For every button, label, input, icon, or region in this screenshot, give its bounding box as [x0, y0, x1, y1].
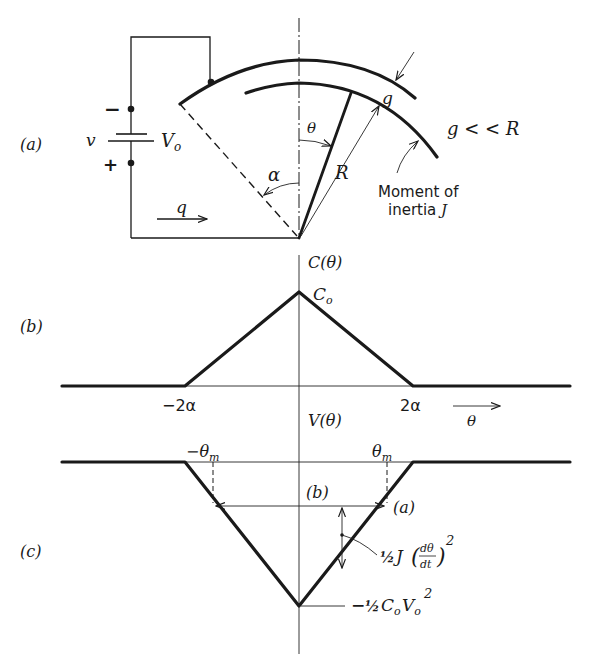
svg-text:½: ½	[380, 549, 395, 565]
battery-v-label: v	[86, 130, 96, 150]
theta-arc	[299, 140, 331, 146]
svg-text:−: −	[351, 595, 365, 615]
gap-arrow	[396, 52, 414, 80]
point-label-a: (a)	[393, 498, 415, 517]
capacitance-axis-label: C(θ)	[308, 253, 342, 272]
inertia-label-line1: Moment of	[378, 183, 459, 201]
figure-canvas: (a) − + v Vo q α θ R	[0, 0, 590, 667]
range-label-b: (b)	[306, 483, 329, 502]
peak-label: Co	[313, 284, 333, 307]
tick-minus-2alpha: −2α	[162, 396, 196, 415]
capacitance-curve	[62, 292, 570, 386]
kinetic-energy-label: ½ J ( dθ dt ) 2	[380, 533, 454, 571]
tick-plus-2alpha: 2α	[400, 396, 421, 415]
battery-voltage-label: Vo	[161, 130, 181, 154]
svg-text:J: J	[393, 546, 404, 566]
alpha-label: α	[268, 164, 280, 185]
inertia-pointer	[397, 141, 418, 173]
svg-text:(: (	[411, 544, 420, 569]
gap-condition: g < < R	[447, 118, 519, 139]
terminal-dot-plus	[128, 160, 135, 167]
panel-b-label: (b)	[20, 317, 43, 336]
panel-b: (b) C(θ) Co −2α 2α θ	[20, 253, 570, 430]
panel-a-label: (a)	[20, 135, 42, 154]
svg-text:dt: dt	[420, 558, 432, 571]
panel-c-label: (c)	[20, 542, 41, 561]
circuit-top-wire	[131, 37, 210, 108]
inertia-label-line2: inertia J	[388, 201, 448, 219]
theta-axis-label: θ	[467, 412, 476, 430]
radius-label: R	[334, 162, 349, 183]
svg-text:2: 2	[445, 533, 454, 548]
svg-text:dθ: dθ	[420, 542, 434, 555]
gap-label: g	[382, 88, 393, 108]
theta-label: θ	[307, 119, 316, 137]
panel-c: (c) V(θ) −θm θm (b) (a) ½ J ( dθ dt ) 2	[20, 411, 570, 618]
plus-sign: +	[103, 154, 118, 175]
terminal-dot-minus	[128, 106, 135, 113]
potential-axis-label: V(θ)	[308, 411, 342, 430]
svg-text:2: 2	[423, 586, 432, 601]
minus-sign: −	[104, 97, 121, 121]
panel-a: (a) − + v Vo q α θ R	[20, 37, 519, 238]
svg-text:½: ½	[365, 598, 380, 614]
svg-text:): )	[436, 544, 446, 569]
minimum-energy-label: − ½ Co Vo 2	[351, 586, 432, 618]
theta-m-right-label: θm	[372, 442, 392, 464]
svg-text:Co: Co	[381, 595, 401, 618]
theta-m-left-label: −θm	[186, 442, 219, 464]
svg-text:Vo: Vo	[402, 595, 421, 618]
current-label: q	[176, 197, 187, 217]
